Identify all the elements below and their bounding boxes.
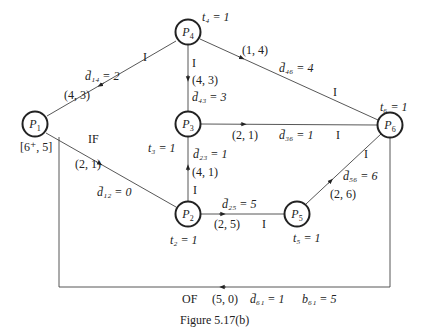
edge-pair-p2-p3: (4, 1) [192,166,218,178]
time-label-p6: t₆ = 1 [380,101,408,113]
edge-mark-p5-p6: I [364,148,368,160]
edge-delay-p6-p1: d̄₆₁ = 1 [250,293,284,305]
node-label-p1: P1 [20,118,50,135]
edge-pair-p5-p6: (2, 6) [330,188,356,200]
edge-pair-p1-p2: (2, 1) [75,158,101,170]
edge-buffer-p6-p1: b₆₁ = 5 [302,293,336,305]
edge-mark-p4-p6: I [333,86,337,98]
edge-delay-p4-p1: d̄₁₄ = 2 [85,70,119,82]
time-label-p4: t₄ = 1 [202,11,230,23]
edge-pair-p4-p1: (4, 3) [64,89,90,101]
node-label-p2: P2 [173,208,203,225]
edge-delay-p2-p3: d̄₂₃ = 1 [193,148,227,160]
edge-mark-p1-p2: IF [88,133,99,145]
time-label-p5: t₅ = 1 [293,232,321,244]
edge-delay-p2-p5: d̄₂₅ = 5 [222,198,256,210]
edge-mark-p4-p1: I [143,51,147,63]
node-label-p3: P3 [173,118,203,135]
node-label-p5: P5 [282,208,312,225]
node-label-p6: P6 [375,119,405,136]
edge-mark-p4-p3: I [192,57,196,69]
edge-mark-p3-p6: I [336,129,340,141]
edge-pair-p4-p6: (1, 4) [242,44,268,56]
edge-delay-p4-p6: d̄₄₆ = 4 [279,62,313,74]
edge-delay-p1-p2: d̄₁₂ = 0 [97,186,131,198]
p1-annotation: [6⁺, 5] [20,141,52,153]
edge-pair-p4-p3: (4, 3) [192,74,218,86]
edge-delay-p3-p6: d̄₃₆ = 1 [279,129,313,141]
edge-p3-p6 [201,124,377,125]
edge-delay-p4-p3: d̄₄₃ = 3 [192,91,226,103]
edge-pair-p2-p5: (2, 5) [214,218,240,230]
edge-pair-p3-p6: (2, 1) [232,129,258,141]
edge-pair-p6-p1: (5, 0) [212,293,238,305]
edge-mark-p6-p1: OF [182,293,197,305]
time-label-p3: t₃ = 1 [148,142,176,154]
edge-mark-p2-p5: I [262,218,266,230]
figure-caption: Figure 5.17(b) [180,313,249,328]
edge-delay-p5-p6: d̄₅₆ = 6 [343,170,377,182]
node-label-p4: P4 [173,26,203,43]
edge-p4-p6 [200,39,378,120]
time-label-p2: t₂ = 1 [170,234,198,246]
edge-mark-p2-p3: I [193,184,197,196]
